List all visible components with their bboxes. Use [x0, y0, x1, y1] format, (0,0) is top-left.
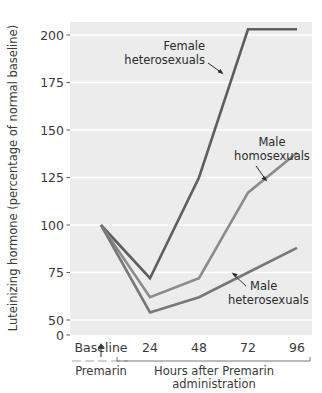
annotation-male-heterosexuals-line2: heterosexuals	[228, 293, 309, 307]
annotation-male-homosexuals-line2: homosexuals	[234, 149, 310, 163]
y-tick-label-125: 125	[40, 170, 64, 185]
x-axis-title-line2: administration	[172, 377, 256, 391]
y-tick-label-175: 175	[40, 75, 64, 90]
line-chart: 05075100125150175200 Baseline24487296 Lu…	[0, 0, 322, 393]
y-tick-label-200: 200	[40, 28, 64, 43]
x-tick-label-24: 24	[142, 340, 158, 355]
y-tick-label-100: 100	[40, 218, 64, 233]
annotation-female-heterosexuals-line1: Female	[163, 39, 205, 53]
annotation-male-heterosexuals-line1: Male	[250, 279, 277, 293]
chart-figure: 05075100125150175200 Baseline24487296 Lu…	[0, 0, 322, 393]
y-axis-title: Luteinizing hormone (percentage of norma…	[6, 25, 20, 331]
x-axis-title-line1: Hours after Premarin	[154, 364, 274, 378]
x-tick-label-48: 48	[191, 340, 207, 355]
premarin-label: Premarin	[75, 364, 127, 378]
y-tick-label-75: 75	[48, 265, 64, 280]
annotation-female-heterosexuals-line2: heterosexuals	[124, 53, 205, 67]
x-tick-label-72: 72	[240, 340, 256, 355]
y-tick-label-50: 50	[48, 313, 64, 328]
y-tick-label-150: 150	[40, 123, 64, 138]
annotation-male-homosexuals-line1: Male	[258, 135, 285, 149]
x-tick-label-96: 96	[289, 340, 305, 355]
y-tick-label-0: 0	[56, 328, 64, 343]
